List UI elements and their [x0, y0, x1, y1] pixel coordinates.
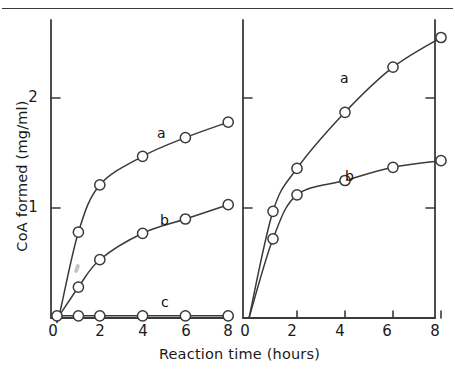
right-x-tick-label-2: 2 — [281, 322, 303, 340]
y-axis-title: CoA formed (mg/ml) — [14, 81, 30, 271]
right-x-tick-label-4: 4 — [329, 322, 351, 340]
chart-canvas — [0, 0, 455, 375]
right-x-tick-label-6: 6 — [376, 322, 398, 340]
x-axis-title: Reaction time (hours) — [0, 346, 455, 362]
left-curve-label-b: b — [160, 212, 169, 228]
left-x-tick-label-0: 0 — [42, 322, 64, 340]
right-x-tick-label-0: 0 — [234, 322, 256, 340]
right-curve-label-a: a — [340, 70, 349, 86]
left-x-tick-label-2: 2 — [89, 322, 111, 340]
y-tick-label-1: 1 — [22, 198, 44, 216]
left-x-tick-label-4: 4 — [132, 322, 154, 340]
left-curve-label-a: a — [157, 125, 166, 141]
left-curve-label-c: c — [161, 294, 169, 310]
left-x-tick-label-6: 6 — [175, 322, 197, 340]
figure-container: CoA formed (mg/ml) Reaction time (hours)… — [0, 0, 455, 375]
y-tick-label-2: 2 — [22, 88, 44, 106]
right-x-tick-label-8: 8 — [424, 322, 446, 340]
right-curve-label-b: b — [345, 168, 354, 184]
